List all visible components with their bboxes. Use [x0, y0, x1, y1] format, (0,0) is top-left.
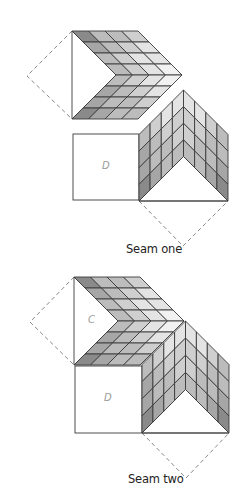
region-c-label: C: [88, 314, 95, 325]
caption-seam-one: Seam one: [126, 242, 182, 256]
dashed-seam-line: [27, 31, 72, 119]
seam-diagram: D Seam one C D Seam two: [0, 0, 248, 503]
figure-seam-one: [27, 31, 228, 246]
figure-seam-two: [30, 277, 229, 478]
diagram-canvas: [0, 0, 248, 503]
square-d-label-1: D: [102, 160, 110, 171]
dashed-seam-line: [139, 201, 228, 246]
caption-seam-two: Seam two: [128, 472, 184, 486]
square-d-label-2: D: [104, 392, 112, 403]
dashed-seam-line: [30, 277, 74, 365]
